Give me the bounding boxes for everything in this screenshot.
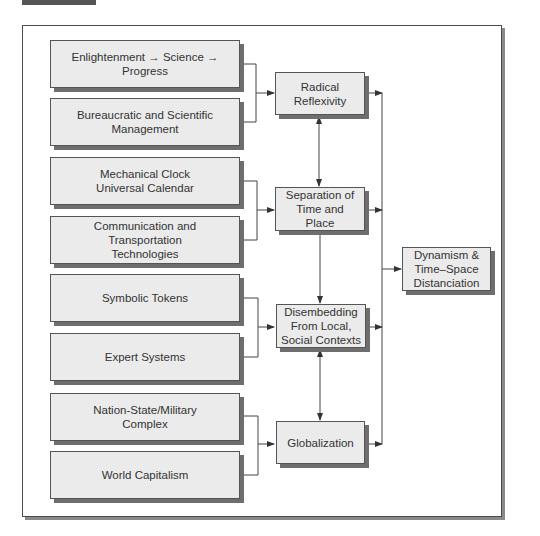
box-reflexivity: Radical Reflexivity bbox=[275, 72, 365, 115]
box-globalization: Globalization bbox=[276, 421, 365, 464]
box-label: Separation of Time and Place bbox=[286, 188, 354, 230]
box-label: Nation-State/Military Complex bbox=[93, 403, 197, 431]
box-label: Disembedding From Local, Social Contexts bbox=[281, 305, 361, 347]
box-label: Communication and Transportation Technol… bbox=[94, 219, 196, 261]
box-label: Dynamism & Time–Space Distanciation bbox=[414, 248, 480, 290]
box-communication: Communication and Transportation Technol… bbox=[50, 216, 240, 264]
box-label: Globalization bbox=[287, 436, 353, 450]
box-enlightenment: Enlightenment → Science → Progress bbox=[50, 40, 240, 88]
box-label: Bureaucratic and Scientific Management bbox=[77, 108, 213, 136]
box-clock: Mechanical Clock Universal Calendar bbox=[50, 157, 240, 205]
box-label: Symbolic Tokens bbox=[102, 291, 188, 305]
box-tokens: Symbolic Tokens bbox=[50, 274, 240, 322]
box-label: Radical Reflexivity bbox=[294, 80, 346, 108]
box-bureaucratic: Bureaucratic and Scientific Management bbox=[50, 98, 240, 146]
box-separation: Separation of Time and Place bbox=[275, 187, 365, 231]
box-dynamism: Dynamism & Time–Space Distanciation bbox=[402, 247, 491, 291]
box-disembedding: Disembedding From Local, Social Contexts bbox=[276, 304, 366, 348]
box-nation: Nation-State/Military Complex bbox=[50, 393, 240, 441]
box-capitalism: World Capitalism bbox=[50, 451, 240, 499]
box-label: Enlightenment → Science → Progress bbox=[55, 50, 235, 78]
box-label: World Capitalism bbox=[102, 468, 189, 482]
box-expert: Expert Systems bbox=[50, 333, 240, 381]
box-label: Expert Systems bbox=[105, 350, 186, 364]
box-label: Mechanical Clock Universal Calendar bbox=[96, 167, 194, 195]
